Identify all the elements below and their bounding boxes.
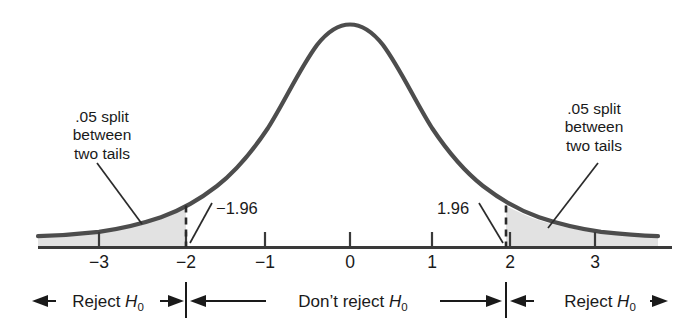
critical-value-label-right: 1.96 [437, 199, 469, 218]
tail-note-left-line3: two tails [46, 145, 158, 163]
x-tick-label-2: 2 [490, 252, 530, 273]
bracket-right-text: Reject [564, 292, 617, 311]
tail-note-left: .05 split between two tails [46, 108, 158, 163]
hypothesis-test-figure: .05 split between two tails .05 split be… [0, 0, 695, 327]
arrow-mid-right [486, 295, 502, 307]
bracket-mid-subscript: 0 [401, 301, 407, 313]
tail-note-left-line2: between [46, 126, 158, 144]
bracket-label-reject-right: Reject H0 [540, 292, 660, 313]
leader-line-critical-left [190, 203, 212, 243]
normal-distribution-plot [0, 0, 695, 327]
bracket-left-symbol: H [125, 292, 137, 311]
tail-note-right-line3: two tails [538, 137, 650, 155]
bracket-mid-symbol: H [389, 292, 401, 311]
arrow-left-inner [168, 295, 184, 307]
tail-note-left-line1: .05 split [46, 108, 158, 126]
arrow-mid-left [190, 295, 206, 307]
bracket-mid-text: Don’t reject [298, 292, 389, 311]
bracket-label-reject-left: Reject H0 [48, 292, 168, 313]
leader-line-tail-note-right [548, 163, 598, 228]
bracket-label-dont-reject: Don’t reject H0 [268, 292, 438, 313]
bracket-right-symbol: H [617, 292, 629, 311]
tail-note-right: .05 split between two tails [538, 100, 650, 155]
left-rejection-region-fill [38, 206, 186, 247]
x-tick-label-neg2: −2 [166, 252, 206, 273]
leader-line-critical-right [479, 203, 503, 243]
x-tick-label-neg3: −3 [79, 252, 119, 273]
arrow-right-inner [510, 295, 526, 307]
x-tick-label-3: 3 [575, 252, 615, 273]
tail-note-right-line2: between [538, 118, 650, 136]
bracket-left-text: Reject [72, 292, 125, 311]
arrow-left-outer [32, 295, 48, 307]
x-tick-label-1: 1 [412, 252, 452, 273]
x-tick-label-0: 0 [330, 252, 370, 273]
bracket-right-subscript: 0 [629, 301, 635, 313]
leader-line-tail-note-left [97, 163, 142, 224]
critical-value-label-left: −1.96 [216, 199, 258, 218]
x-tick-label-neg1: −1 [245, 252, 285, 273]
bracket-left-subscript: 0 [137, 301, 143, 313]
tail-note-right-line1: .05 split [538, 100, 650, 118]
